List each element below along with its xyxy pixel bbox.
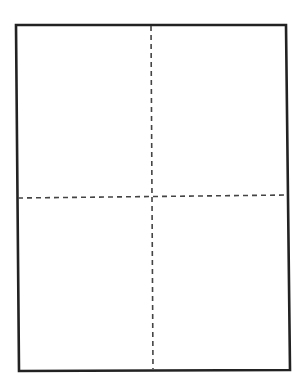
quadrant-diagram xyxy=(0,0,301,391)
